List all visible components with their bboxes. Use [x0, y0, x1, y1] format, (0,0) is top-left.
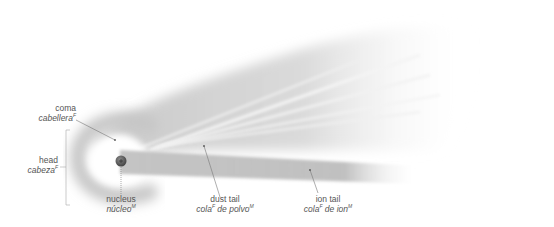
nucleus-label-es: núcleoM — [91, 204, 151, 214]
comet-diagram: coma cabelleraF head cabezaF nucleus núc… — [0, 0, 554, 227]
head-bracket — [66, 130, 70, 205]
head-label-es: cabezaF — [0, 165, 58, 175]
coma-label-en: coma — [10, 103, 76, 113]
comet-illustration — [0, 0, 554, 227]
nucleus-label-en: nucleus — [91, 194, 151, 204]
ion-tail-shape — [120, 150, 420, 184]
nucleus-label: nucleus núcleoM — [91, 194, 151, 214]
head-label: head cabezaF — [0, 155, 58, 175]
dust-tail-label-es: colaF de polvoM — [180, 204, 270, 214]
dust-tail-shape — [95, 26, 474, 160]
ion-tail-label: ion tail colaF de ionM — [288, 194, 368, 214]
ion-tail-label-en: ion tail — [288, 194, 368, 204]
ion-tail-label-es: colaF de ionM — [288, 204, 368, 214]
dust-tail-label-en: dust tail — [180, 194, 270, 204]
dust-tail-label: dust tail colaF de polvoM — [180, 194, 270, 214]
head-label-en: head — [0, 155, 58, 165]
coma-label-es: cabelleraF — [10, 113, 76, 123]
nucleus-shape — [116, 156, 127, 167]
coma-label: coma cabelleraF — [10, 103, 76, 123]
